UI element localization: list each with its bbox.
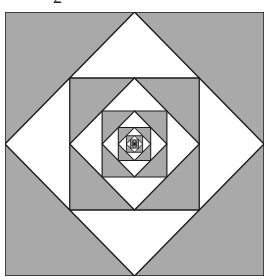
nested-squares-diagram — [5, 12, 264, 276]
nested-squares-svg — [5, 12, 264, 276]
figure-label: 2 — [53, 0, 62, 6]
center-dot — [133, 143, 135, 145]
